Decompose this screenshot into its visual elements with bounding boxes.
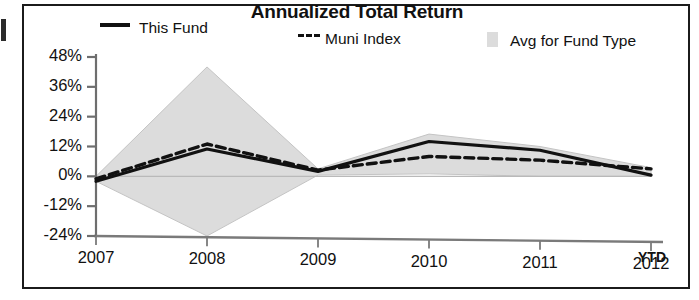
x-axis-ytd-label: YTD: [638, 249, 666, 265]
x-axis-line: [94, 236, 663, 242]
y-axis-tick-label: 12%: [20, 136, 82, 155]
x-axis-tick-label: 2011: [505, 253, 575, 272]
x-axis-tick-label: 2009: [283, 250, 353, 269]
y-axis-tick-label: 0%: [20, 165, 82, 184]
y-axis-tick-label: -24%: [20, 225, 82, 244]
y-axis-tick-label: 24%: [20, 106, 82, 125]
y-axis-tick-label: 36%: [20, 76, 82, 95]
plot-area: 48%36%24%12%0%-12%-24%200720082009201020…: [0, 0, 699, 300]
y-axis-tick-label: 48%: [20, 46, 82, 65]
y-axis-tick-label: -12%: [20, 195, 82, 214]
x-axis-tick-label: 2010: [394, 252, 464, 271]
x-axis-tick-label: 2008: [172, 249, 242, 268]
x-axis-tick-label: 2007: [61, 248, 131, 267]
